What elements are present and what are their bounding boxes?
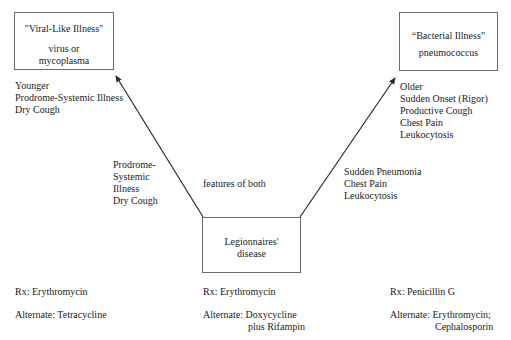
viral-illness-title: "Viral-Like Illness": [15, 23, 113, 35]
right-arrow-label-line: Sudden Pneumonia: [344, 166, 422, 178]
bacterial-alternate-line: Cephalosporin: [390, 321, 493, 333]
viral-alternate: Alternate: Tetracycline: [15, 309, 107, 321]
viral-features: Younger Prodrome-Systemic Illness Dry Co…: [15, 80, 123, 116]
right-arrow-label-line: Chest Pain: [344, 178, 422, 190]
viral-alternate-line: Alternate: Tetracycline: [15, 309, 107, 320]
legionnaires-box: Legionnaires' disease: [202, 217, 301, 273]
viral-illness-sub-1: virus or: [15, 43, 113, 55]
legionnaires-line-1: Legionnaires': [203, 236, 300, 248]
viral-feature: Dry Cough: [15, 104, 123, 116]
bacterial-illness-title: “Bacterial Illness”: [400, 30, 497, 42]
viral-illness-box: "Viral-Like Illness" virus or mycoplasma: [14, 12, 114, 70]
left-arrow-label-line: Prodrome-: [113, 159, 158, 171]
left-arrow-label: Prodrome- Systemic Illness Dry Cough: [113, 159, 158, 207]
bacterial-illness-box: “Bacterial Illness” pneumococcus: [399, 12, 498, 71]
right-arrow-label-line: Leukocytosis: [344, 190, 422, 202]
bacterial-features: Older Sudden Onset (Rigor) Productive Co…: [400, 81, 488, 141]
legionnaires-alternate-line: Alternate: Doxycycline: [203, 309, 305, 321]
viral-feature: Prodrome-Systemic Illness: [15, 92, 123, 104]
left-arrow-label-line: Systemic: [113, 171, 158, 183]
bacterial-rx: Rx: Penicillin G: [390, 286, 455, 298]
viral-rx: Rx: Erythromycin: [15, 286, 88, 298]
bacterial-illness-sub: pneumococcus: [400, 47, 497, 59]
bacterial-feature: Older: [400, 81, 488, 93]
legionnaires-rx: Rx: Erythromycin: [203, 286, 276, 298]
features-of-both-label: features of both: [203, 178, 266, 190]
bacterial-alternate-line: Alternate: Erythromycin;: [390, 309, 493, 321]
bacterial-feature: Productive Cough: [400, 105, 488, 117]
left-arrow-label-line: Illness: [113, 183, 158, 195]
legionnaires-line-2: disease: [203, 248, 300, 260]
bacterial-alternate: Alternate: Erythromycin; Cephalosporin: [390, 309, 493, 333]
bacterial-feature: Sudden Onset (Rigor): [400, 93, 488, 105]
viral-feature: Younger: [15, 80, 123, 92]
viral-illness-sub-2: mycoplasma: [15, 55, 113, 67]
left-arrow-label-line: Dry Cough: [113, 195, 158, 207]
legionnaires-alternate: Alternate: Doxycycline plus Rifampin: [203, 309, 305, 333]
legionnaires-alternate-line: plus Rifampin: [203, 321, 305, 333]
bacterial-feature: Leukocytosis: [400, 129, 488, 141]
bacterial-feature: Chest Pain: [400, 117, 488, 129]
right-arrow-label: Sudden Pneumonia Chest Pain Leukocytosis: [344, 166, 422, 202]
